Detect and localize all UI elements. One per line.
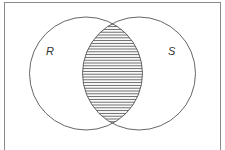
venn-diagram: R S — [0, 0, 225, 150]
set-r-label: R — [46, 45, 54, 57]
intersection-hatch — [83, 17, 196, 130]
set-s-label: S — [168, 45, 176, 57]
